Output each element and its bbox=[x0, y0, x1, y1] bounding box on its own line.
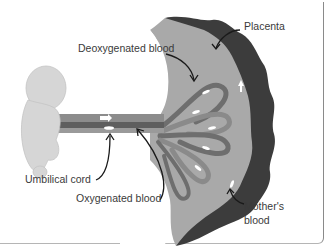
fetus-illustration bbox=[21, 66, 66, 178]
label-mothers-blood-line1: Mother's bbox=[244, 200, 284, 213]
label-umbilical-cord: Umbilical cord bbox=[25, 173, 91, 186]
label-deoxygenated-blood: Deoxygenated blood bbox=[78, 42, 174, 55]
label-mothers-blood-line2: blood bbox=[244, 214, 270, 227]
label-oxygenated-blood: Oxygenated blood bbox=[76, 192, 161, 205]
diagram-frame: Deoxygenated blood Placenta Umbilical co… bbox=[0, 0, 326, 248]
label-placenta: Placenta bbox=[244, 20, 285, 33]
